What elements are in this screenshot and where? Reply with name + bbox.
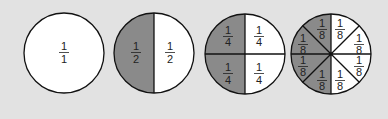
svg-text:1: 1 <box>61 40 67 52</box>
fraction-circles-diagram: 1 1 1 2 1 2 1 4 1 <box>0 0 388 119</box>
svg-text:1: 1 <box>319 17 325 29</box>
svg-text:1: 1 <box>337 68 343 80</box>
svg-text:1: 1 <box>256 61 262 73</box>
circle-whole: 1 1 <box>24 13 104 93</box>
svg-text:1: 1 <box>300 32 306 44</box>
svg-text:8: 8 <box>337 29 343 41</box>
svg-text:1: 1 <box>225 61 231 73</box>
svg-text:1: 1 <box>356 32 362 44</box>
svg-text:4: 4 <box>256 36 262 48</box>
svg-text:1: 1 <box>225 24 231 36</box>
circle-halves: 1 2 1 2 <box>114 13 194 93</box>
svg-text:1: 1 <box>167 40 173 52</box>
svg-text:2: 2 <box>133 53 139 65</box>
svg-text:1: 1 <box>133 40 139 52</box>
svg-text:8: 8 <box>319 29 325 41</box>
svg-text:8: 8 <box>319 80 325 92</box>
svg-text:8: 8 <box>356 66 362 78</box>
svg-text:1: 1 <box>319 68 325 80</box>
svg-text:1: 1 <box>356 54 362 66</box>
svg-text:8: 8 <box>300 66 306 78</box>
svg-text:4: 4 <box>225 36 231 48</box>
circle-eighths: 1 8 1 8 1 8 1 8 1 8 1 8 1 <box>291 14 371 94</box>
svg-text:2: 2 <box>167 53 173 65</box>
svg-text:1: 1 <box>61 53 67 65</box>
svg-text:4: 4 <box>256 74 262 86</box>
circle-quarters: 1 4 1 4 1 4 1 4 <box>205 14 285 94</box>
svg-text:4: 4 <box>225 74 231 86</box>
svg-text:1: 1 <box>337 17 343 29</box>
svg-text:8: 8 <box>337 80 343 92</box>
svg-text:1: 1 <box>300 54 306 66</box>
svg-text:1: 1 <box>256 24 262 36</box>
